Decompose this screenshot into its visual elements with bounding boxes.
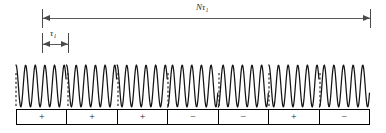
code-sequence-row: +++−−+−: [16, 109, 370, 125]
code-cell: +: [269, 110, 319, 124]
waveform-path: [16, 65, 369, 107]
code-cell: +: [118, 110, 168, 124]
code-cell: −: [219, 110, 269, 124]
code-cell: −: [168, 110, 218, 124]
code-cell: +: [67, 110, 117, 124]
code-cell: −: [320, 110, 369, 124]
code-cell: +: [17, 110, 67, 124]
phase-coded-pulse-figure: Nτ₁ τ₁ +++−−+−: [0, 0, 386, 133]
